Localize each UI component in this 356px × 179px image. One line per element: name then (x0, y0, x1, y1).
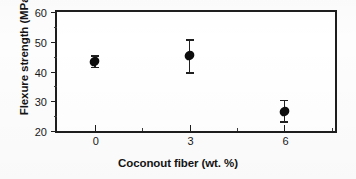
x-tick-label: 0 (93, 135, 99, 147)
y-axis-title: Flexure strength (MPa) (18, 0, 30, 124)
x-tick-major: 6 (284, 125, 285, 131)
plot-area: 2030405060 036 (55, 10, 337, 133)
y-tick-minor (54, 57, 58, 58)
x-tick-major: 3 (190, 125, 191, 131)
flexure-strength-chart: Flexure strength (MPa) 2030405060 036 Co… (0, 0, 356, 179)
y-tick-major: 30 (51, 101, 57, 102)
data-marker (278, 105, 291, 118)
y-tick-major: 50 (51, 42, 57, 43)
y-tick-label: 20 (35, 126, 47, 138)
x-axis-title: Coconout fiber (wt. %) (0, 157, 356, 169)
y-tick-minor (54, 116, 58, 117)
error-bar-cap-lower (280, 121, 288, 122)
x-tick-label: 3 (188, 135, 194, 147)
y-tick-major: 60 (51, 12, 57, 13)
error-bar-cap-upper (280, 100, 288, 101)
y-tick-major: 20 (51, 131, 57, 132)
error-bar-cap-upper (186, 39, 194, 40)
error-bar-cap-lower (186, 72, 194, 73)
y-tick-label: 50 (35, 37, 47, 49)
x-tick-major: 0 (95, 125, 96, 131)
x-tick-minor (142, 128, 143, 132)
data-marker (183, 48, 196, 61)
x-tick-minor (237, 128, 238, 132)
x-tick-label: 6 (282, 135, 288, 147)
y-tick-major: 40 (51, 72, 57, 73)
y-tick-label: 30 (35, 96, 47, 108)
x-tick-minor (332, 128, 333, 132)
y-tick-minor (54, 27, 58, 28)
y-tick-label: 40 (35, 67, 47, 79)
y-tick-minor (54, 86, 58, 87)
y-tick-label: 60 (35, 7, 47, 19)
error-bar-cap-lower (91, 67, 99, 68)
